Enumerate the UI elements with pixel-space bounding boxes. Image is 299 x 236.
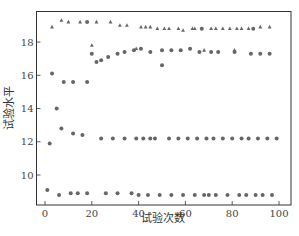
circle-point: [99, 58, 103, 62]
triangle-point: [167, 27, 171, 31]
circle-point: [85, 80, 89, 84]
circle-point: [197, 50, 201, 54]
circle-point: [139, 47, 143, 51]
circle-point: [69, 191, 73, 195]
circle-point: [261, 193, 265, 197]
triangle-point: [214, 27, 218, 31]
triangle-point: [228, 27, 232, 31]
triangle-point: [109, 20, 113, 24]
triangle-point: [176, 27, 180, 31]
circle-point: [50, 72, 54, 76]
circle-point: [123, 50, 127, 54]
circle-point: [275, 136, 279, 140]
triangle-point: [233, 48, 237, 52]
y-axis: 1012141618: [21, 37, 41, 181]
circle-point: [193, 193, 197, 197]
circle-point: [90, 52, 94, 56]
y-tick-label: 14: [21, 103, 34, 114]
circle-point: [244, 193, 248, 197]
circle-point: [207, 193, 211, 197]
circle-point: [230, 136, 234, 140]
triangle-point: [139, 25, 143, 29]
triangle-point: [155, 27, 159, 31]
circle-point: [71, 131, 75, 135]
circle-point: [200, 27, 204, 31]
circle-point: [71, 80, 75, 84]
triangle-point: [162, 27, 166, 31]
circle-point: [181, 193, 185, 197]
circle-point: [99, 136, 103, 140]
circle-point: [85, 20, 89, 24]
circle-point: [195, 136, 199, 140]
x-tick-label: 0: [42, 208, 48, 219]
circle-point: [130, 191, 134, 195]
triangle-point: [148, 25, 152, 29]
triangle-point: [193, 27, 197, 31]
circle-point: [85, 191, 89, 195]
triangle-point: [90, 43, 94, 47]
circle-point: [247, 136, 251, 140]
circle-point: [202, 193, 206, 197]
triangle-point: [95, 20, 99, 24]
x-axis-title: 试验次数: [141, 211, 185, 225]
circle-point: [146, 193, 150, 197]
circle-point: [169, 193, 173, 197]
circle-point: [123, 136, 127, 140]
data-points: [45, 18, 278, 197]
triangle-point: [209, 27, 213, 31]
triangle-point: [78, 20, 82, 24]
circle-point: [62, 80, 66, 84]
circle-point: [45, 188, 49, 192]
circle-point: [160, 63, 164, 67]
triangle-point: [181, 28, 185, 32]
circle-point: [237, 193, 241, 197]
circle-point: [167, 136, 171, 140]
y-tick-label: 18: [21, 37, 34, 48]
circle-point: [141, 136, 145, 140]
circle-point: [76, 191, 80, 195]
triangle-point: [59, 18, 63, 22]
circle-point: [240, 136, 244, 140]
triangle-point: [247, 27, 251, 31]
circle-point: [134, 136, 138, 140]
scatter-chart: 020406080100 1012141618 试验次数 试验水平: [0, 0, 299, 236]
circle-point: [265, 136, 269, 140]
circle-point: [48, 141, 52, 145]
circle-point: [216, 50, 220, 54]
circle-point: [160, 48, 164, 52]
circle-point: [204, 136, 208, 140]
circle-point: [57, 193, 61, 197]
circle-point: [186, 136, 190, 140]
triangle-point: [67, 20, 71, 24]
triangle-point: [268, 25, 272, 29]
x-tick-label: 20: [85, 208, 98, 219]
circle-point: [254, 193, 258, 197]
circle-point: [176, 136, 180, 140]
circle-point: [179, 48, 183, 52]
triangle-point: [50, 25, 54, 29]
circle-point: [249, 52, 253, 56]
plot-frame: [37, 12, 292, 206]
circle-point: [116, 191, 120, 195]
circle-point: [59, 126, 63, 130]
triangle-point: [118, 23, 122, 27]
figure-caption-faint: [0, 226, 299, 236]
circle-point: [116, 52, 120, 56]
circle-point: [214, 193, 218, 197]
circle-point: [94, 60, 98, 64]
triangle-point: [125, 23, 129, 27]
triangle-point: [202, 48, 206, 52]
circle-point: [209, 50, 213, 54]
circle-point: [256, 136, 260, 140]
circle-point: [80, 133, 84, 137]
circle-point: [153, 136, 157, 140]
circle-point: [258, 52, 262, 56]
y-tick-label: 12: [21, 136, 34, 147]
circle-point: [268, 52, 272, 56]
triangle-point: [221, 27, 225, 31]
circle-point: [137, 193, 141, 197]
circle-point: [251, 27, 255, 31]
triangle-point: [240, 27, 244, 31]
triangle-point: [134, 46, 138, 50]
circle-point: [104, 191, 108, 195]
